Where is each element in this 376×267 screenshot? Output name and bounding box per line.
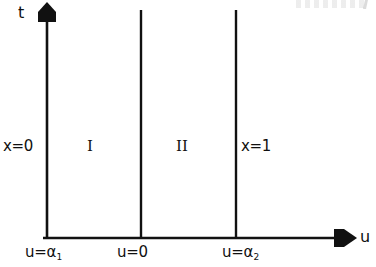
u-value-alpha2-text: u=α: [222, 243, 253, 261]
axes-diagram: [0, 0, 376, 267]
u-value-label-alpha-2: u=α2: [222, 245, 259, 260]
diagram-canvas: t u x=0 x=1 I II u=α1 u=0 u=α2: [0, 0, 376, 267]
t-axis-arrow-icon: [38, 2, 56, 22]
region-label-two: II: [176, 139, 188, 154]
t-axis-label: t: [18, 5, 24, 21]
boundary-label-x-equals-1: x=1: [241, 139, 271, 154]
u-value-label-zero: u=0: [117, 245, 148, 260]
u-value-label-alpha-1: u=α1: [25, 245, 62, 260]
region-label-one: I: [87, 139, 93, 154]
u-value-alpha1-text: u=α: [25, 243, 56, 261]
u-value-alpha2-subscript: 2: [254, 252, 259, 262]
u-value-alpha1-subscript: 1: [57, 252, 62, 262]
u-axis-arrow-icon: [334, 229, 357, 247]
u-axis-label: u: [360, 229, 370, 245]
boundary-label-x-equals-0: x=0: [3, 139, 33, 154]
